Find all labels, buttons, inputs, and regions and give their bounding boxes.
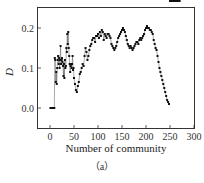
data-point bbox=[53, 107, 55, 109]
data-point bbox=[64, 59, 66, 61]
data-point bbox=[126, 39, 128, 41]
data-point bbox=[102, 31, 104, 33]
data-point bbox=[129, 47, 131, 49]
data-point bbox=[69, 71, 71, 73]
data-point bbox=[133, 45, 135, 47]
data-point bbox=[117, 37, 119, 39]
data-point bbox=[66, 51, 68, 53]
data-point bbox=[137, 43, 139, 45]
data-point bbox=[167, 101, 169, 103]
x-axis-label: Number of community bbox=[66, 142, 167, 154]
data-point bbox=[100, 35, 102, 37]
data-point bbox=[55, 71, 57, 73]
data-point bbox=[106, 37, 108, 39]
data-point bbox=[85, 51, 87, 53]
data-point bbox=[56, 67, 58, 69]
data-point bbox=[56, 83, 58, 85]
chart: 0.00.10.2 050100150200250300 D Number of… bbox=[0, 0, 204, 183]
data-point bbox=[127, 43, 129, 45]
data-point bbox=[79, 73, 81, 75]
data-point bbox=[65, 47, 67, 49]
y-axis: 0.00.10.2 bbox=[22, 23, 42, 114]
data-point bbox=[153, 39, 155, 41]
data-point bbox=[150, 29, 152, 31]
data-point bbox=[91, 39, 93, 41]
data-point bbox=[98, 37, 100, 39]
data-point bbox=[142, 35, 144, 37]
y-tick-label: 0.0 bbox=[22, 103, 35, 114]
data-point bbox=[57, 55, 59, 57]
data-point bbox=[76, 91, 78, 93]
data-point bbox=[140, 39, 142, 41]
data-point bbox=[123, 29, 125, 31]
data-point bbox=[90, 43, 92, 45]
plot-frame bbox=[38, 8, 195, 129]
data-point bbox=[82, 63, 84, 65]
data-point bbox=[68, 55, 70, 57]
data-point bbox=[143, 33, 145, 35]
data-point bbox=[157, 55, 159, 57]
data-point bbox=[114, 47, 116, 49]
data-point bbox=[133, 47, 135, 49]
data-point bbox=[67, 31, 69, 33]
data-series bbox=[49, 0, 180, 109]
data-point bbox=[65, 65, 67, 67]
data-point bbox=[99, 31, 101, 33]
data-point bbox=[62, 65, 64, 67]
data-point bbox=[72, 69, 74, 71]
data-point bbox=[73, 77, 75, 79]
data-point bbox=[60, 45, 62, 47]
data-point bbox=[108, 33, 110, 35]
data-point bbox=[115, 45, 117, 47]
data-point bbox=[68, 47, 70, 49]
x-tick-label: 300 bbox=[187, 131, 202, 142]
data-point bbox=[61, 61, 63, 63]
data-point bbox=[120, 31, 122, 33]
data-point bbox=[134, 43, 136, 45]
data-point bbox=[111, 45, 113, 47]
data-point bbox=[85, 47, 87, 49]
data-point bbox=[136, 41, 138, 43]
data-point bbox=[89, 45, 91, 47]
data-point bbox=[63, 63, 65, 65]
data-point bbox=[156, 49, 158, 51]
data-point bbox=[104, 33, 106, 35]
data-point bbox=[58, 57, 60, 59]
data-point bbox=[70, 65, 72, 67]
data-point bbox=[158, 67, 160, 69]
data-point bbox=[164, 91, 166, 93]
data-point bbox=[130, 45, 132, 47]
data-point bbox=[73, 67, 75, 69]
data-point bbox=[75, 89, 77, 91]
data-point bbox=[113, 49, 115, 51]
data-point bbox=[152, 33, 154, 35]
data-point bbox=[61, 59, 63, 61]
data-point bbox=[131, 47, 133, 49]
data-point bbox=[80, 71, 82, 73]
x-tick-label: 200 bbox=[139, 131, 154, 142]
data-point bbox=[112, 47, 114, 49]
x-tick-label: 0 bbox=[48, 131, 53, 142]
data-point bbox=[109, 37, 111, 39]
data-point bbox=[145, 27, 147, 29]
data-point bbox=[141, 37, 143, 39]
data-point bbox=[163, 87, 165, 89]
data-point bbox=[118, 35, 120, 37]
data-point bbox=[54, 59, 56, 61]
data-point bbox=[83, 65, 85, 67]
data-point bbox=[121, 29, 123, 31]
data-point bbox=[74, 83, 76, 85]
data-point bbox=[81, 67, 83, 69]
data-point bbox=[144, 29, 146, 31]
data-point bbox=[161, 79, 163, 81]
data-point bbox=[54, 57, 56, 59]
x-tick-label: 150 bbox=[115, 131, 130, 142]
data-point bbox=[124, 31, 126, 33]
data-point bbox=[155, 47, 157, 49]
data-point bbox=[84, 55, 86, 57]
data-point bbox=[154, 43, 156, 45]
data-point bbox=[148, 27, 150, 29]
data-point bbox=[77, 85, 79, 87]
data-point bbox=[67, 43, 69, 45]
data-point bbox=[94, 41, 96, 43]
